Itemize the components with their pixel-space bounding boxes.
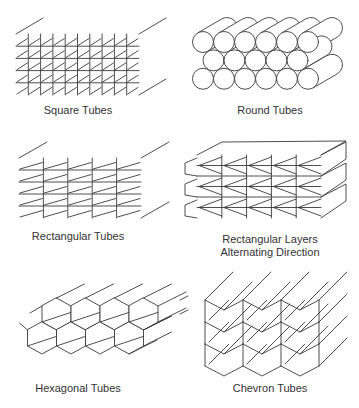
stroke	[66, 51, 76, 58]
tube-face	[298, 68, 319, 89]
stroke	[141, 142, 169, 158]
tube-face	[193, 68, 214, 89]
stroke	[91, 87, 101, 94]
stroke	[19, 142, 47, 158]
stroke	[44, 211, 66, 217]
stroke	[79, 63, 89, 70]
tube-face	[235, 68, 256, 89]
stroke	[93, 163, 115, 169]
stroke	[319, 338, 347, 366]
stroke	[93, 175, 115, 181]
stroke	[69, 187, 91, 193]
stroke	[79, 75, 89, 82]
stroke	[91, 63, 101, 70]
stroke	[86, 284, 114, 298]
stroke	[262, 282, 290, 310]
stroke	[29, 87, 39, 94]
stroke	[42, 75, 52, 82]
stroke	[54, 39, 64, 46]
round-tubes-caption: Round Tubes	[237, 104, 302, 117]
caption-line: Round Tubes	[237, 104, 302, 117]
stroke	[93, 187, 115, 193]
stroke	[29, 39, 39, 46]
tube-face	[256, 32, 277, 53]
stroke	[79, 39, 89, 46]
stroke	[17, 51, 27, 58]
stroke	[180, 296, 188, 300]
stroke	[319, 316, 347, 344]
left-plate	[185, 158, 197, 176]
side-plate	[321, 184, 346, 218]
tube-face	[287, 50, 308, 71]
stroke	[44, 175, 66, 181]
stroke	[118, 211, 140, 217]
stroke	[20, 211, 42, 217]
stroke	[128, 51, 138, 58]
tube-face	[266, 50, 287, 71]
top-plate	[197, 141, 346, 155]
tube-face	[298, 32, 319, 53]
stroke	[44, 199, 66, 205]
caption-line: Alternating Direction	[220, 246, 319, 259]
left-plate	[185, 200, 197, 218]
stroke	[103, 51, 113, 58]
stroke	[20, 163, 42, 169]
stroke	[17, 39, 27, 46]
stroke	[20, 187, 42, 193]
stroke	[69, 163, 91, 169]
stroke	[118, 175, 140, 181]
caption-line: Hexagonal Tubes	[35, 382, 121, 395]
stroke	[118, 187, 140, 193]
stroke	[17, 75, 27, 82]
tube-face	[277, 68, 298, 89]
stroke	[17, 63, 27, 70]
stroke	[17, 87, 27, 94]
stroke	[115, 284, 143, 298]
stroke	[91, 39, 101, 46]
square-tubes-drawing	[16, 18, 166, 95]
stroke	[139, 18, 166, 34]
stroke	[91, 75, 101, 82]
stroke	[319, 294, 347, 322]
hexagonal-tubes-drawing	[20, 284, 187, 354]
tube-face	[256, 68, 277, 89]
stroke	[93, 211, 115, 217]
stroke	[281, 272, 309, 300]
side-plate	[321, 163, 346, 197]
stroke	[128, 63, 138, 70]
caption-line: Rectangular Tubes	[32, 230, 124, 243]
stroke	[205, 272, 233, 300]
stroke	[79, 51, 89, 58]
round-tubes-drawing	[193, 17, 343, 89]
tube-face	[203, 50, 224, 71]
stroke	[118, 163, 140, 169]
left-plate	[185, 179, 197, 197]
stroke	[79, 87, 89, 94]
tube-face	[214, 32, 235, 53]
stroke	[128, 39, 138, 46]
tube-face	[245, 50, 266, 71]
stroke	[66, 63, 76, 70]
stroke	[128, 87, 138, 94]
hexagonal-tubes-caption: Hexagonal Tubes	[35, 382, 121, 395]
rectangular-layers-caption: Rectangular Layers Alternating Direction	[220, 233, 319, 259]
stroke	[319, 272, 347, 300]
stroke	[29, 51, 39, 58]
tube-face	[277, 32, 298, 53]
square-tubes-caption: Square Tubes	[44, 104, 113, 117]
tube-face	[193, 32, 214, 53]
stroke	[69, 175, 91, 181]
stroke	[44, 187, 66, 193]
stroke	[66, 75, 76, 82]
stroke	[224, 282, 252, 310]
stroke	[144, 332, 172, 346]
stroke	[30, 306, 42, 313]
stroke	[66, 87, 76, 94]
rectangular-tubes-drawing	[19, 142, 169, 218]
stroke	[66, 39, 76, 46]
stroke	[42, 63, 52, 70]
stroke	[115, 39, 125, 46]
stroke	[91, 51, 101, 58]
stroke	[29, 63, 39, 70]
stroke	[54, 87, 64, 94]
